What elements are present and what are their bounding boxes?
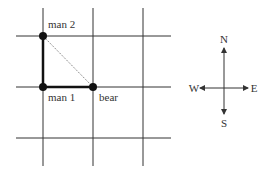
- label-man1: man 1: [48, 91, 75, 103]
- point-man1: [39, 83, 47, 91]
- compass-label-west: W: [189, 82, 200, 94]
- compass-label-north: N: [220, 33, 228, 45]
- grid-diagram: man 2 man 1 bear N S W E: [0, 0, 268, 178]
- compass: N S W E: [189, 33, 258, 129]
- point-man2: [39, 32, 47, 40]
- label-bear: bear: [99, 91, 118, 103]
- path-man2-bear-dotted: [43, 36, 93, 87]
- label-man2: man 2: [48, 18, 75, 30]
- compass-label-south: S: [221, 117, 227, 129]
- point-bear: [89, 83, 97, 91]
- compass-label-east: E: [251, 82, 258, 94]
